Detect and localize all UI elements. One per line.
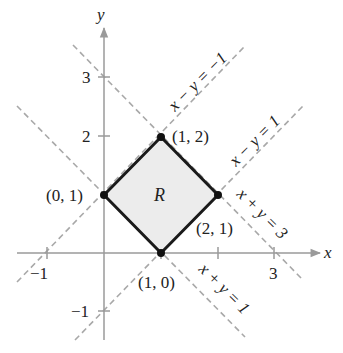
region-label: R — [153, 185, 165, 205]
vertex-1-0 — [157, 249, 165, 257]
y-tick-label-neg1: −1 — [71, 302, 89, 321]
x-tick-label-3: 3 — [269, 264, 278, 283]
equation-label-x-minus-y-eq-1: x − y = 1 — [225, 111, 284, 170]
equation-label-x-minus-y-eq-neg1: x − y = −1 — [164, 48, 231, 115]
y-axis-label: y — [95, 5, 105, 24]
vertex-label-1-2: (1, 2) — [172, 127, 209, 146]
coordinate-plane: y x 3 2 −1 −1 3 (0, 1) (1, 2) (2, 1) (1,… — [0, 0, 343, 353]
vertex-0-1 — [100, 191, 108, 199]
vertex-1-2 — [157, 133, 165, 141]
equation-label-x-plus-y-eq-1: x + y = 1 — [194, 259, 253, 318]
equation-label-x-plus-y-eq-3: x + y = 3 — [232, 184, 291, 243]
vertex-label-1-0: (1, 0) — [138, 273, 175, 292]
x-axis-label: x — [323, 243, 332, 262]
vertex-label-0-1: (0, 1) — [46, 186, 83, 205]
y-tick-label-2: 2 — [82, 127, 91, 146]
vertex-2-1 — [214, 191, 222, 199]
x-tick-label-neg1: −1 — [30, 264, 48, 283]
vertex-label-2-1: (2, 1) — [196, 219, 233, 238]
y-tick-label-3: 3 — [82, 68, 91, 87]
